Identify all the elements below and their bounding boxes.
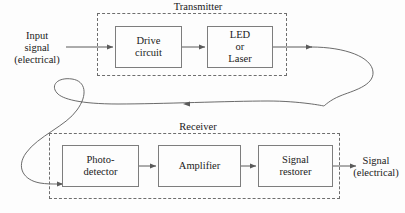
figure-canvas: Transmitter Drive circuit LED or Laser I…	[0, 0, 405, 213]
transmitter-title: Transmitter	[170, 1, 226, 13]
block-led-or-laser-label: LED or Laser	[228, 29, 251, 64]
output-signal-label: Signal (electrical)	[347, 155, 405, 179]
block-drive-circuit-label: Drive circuit	[135, 35, 162, 59]
output-line2: (electrical)	[353, 167, 398, 178]
block-signal-restorer[interactable]: Signal restorer	[258, 145, 333, 187]
block-amplifier-label: Amplifier	[179, 160, 220, 172]
block-photodetector-label: Photo- detector	[84, 154, 118, 178]
output-line1: Signal	[363, 155, 390, 166]
signal-restorer-line1: Signal	[282, 154, 309, 165]
block-amplifier[interactable]: Amplifier	[158, 145, 241, 187]
signal-restorer-line2: restorer	[279, 166, 311, 177]
input-line3: (electrical)	[14, 54, 59, 65]
input-line1: Input	[26, 30, 48, 41]
block-signal-restorer-label: Signal restorer	[279, 154, 311, 178]
block-photodetector[interactable]: Photo- detector	[62, 145, 139, 187]
led-line1: LED	[230, 29, 250, 40]
drive-circuit-line2: circuit	[135, 47, 162, 58]
block-led-or-laser[interactable]: LED or Laser	[207, 26, 273, 68]
photodetector-line2: detector	[84, 166, 118, 177]
photodetector-line1: Photo-	[86, 154, 114, 165]
led-line2: or	[236, 41, 245, 52]
receiver-title: Receiver	[176, 121, 220, 133]
input-line2: signal	[24, 42, 49, 53]
block-drive-circuit[interactable]: Drive circuit	[115, 26, 182, 68]
drive-circuit-line1: Drive	[137, 35, 161, 46]
led-line3: Laser	[228, 53, 251, 64]
input-signal-label: Input signal (electrical)	[8, 30, 66, 66]
figure-caption	[4, 205, 334, 213]
